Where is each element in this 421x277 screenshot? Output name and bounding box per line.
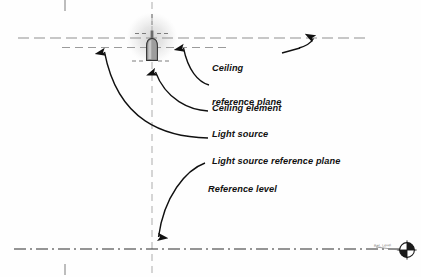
leader-ceiling-element (184, 48, 210, 85)
label-reference-level-text: Reference level (208, 184, 277, 195)
leader-tail-ceiling-reference-plane (282, 48, 300, 53)
leader-ceiling-reference-plane (299, 39, 314, 49)
leader-light-source-reference-plane (105, 52, 209, 138)
label-reference-level: Reference level (208, 162, 277, 218)
label-ceiling-reference-plane-line1: Ceiling (212, 63, 281, 74)
datum-target-symbol (397, 240, 416, 259)
leader-reference-level (159, 163, 206, 237)
diagram-canvas: Ceiling reference plane Ceiling element … (0, 0, 421, 277)
leader-light-source (156, 72, 209, 111)
diagram-vector-layer (0, 0, 421, 277)
